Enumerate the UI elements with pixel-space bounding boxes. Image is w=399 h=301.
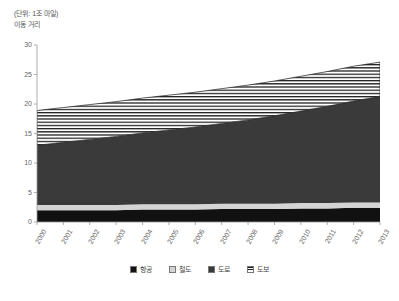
stacked-area-plot <box>0 0 399 301</box>
legend-item-road[interactable]: 도로 <box>208 266 230 273</box>
legend-swatch-icon <box>208 266 215 273</box>
y-axis-tick-label: 30 <box>18 41 32 48</box>
y-axis-tick-label: 0 <box>18 218 32 225</box>
legend-item-walk[interactable]: 도보 <box>247 266 269 273</box>
legend-label: 도로 <box>218 266 230 273</box>
x-axis-ticks <box>37 222 380 225</box>
chart-root: (단위: 1조 마일) 이동 거리 051015202530 200020012… <box>0 0 399 301</box>
legend-label: 철도 <box>179 266 191 273</box>
legend-swatch-icon <box>130 266 137 273</box>
legend-item-air[interactable]: 항공 <box>130 266 152 273</box>
legend-swatch-icon <box>169 266 176 273</box>
legend-item-rail[interactable]: 철도 <box>169 266 191 273</box>
y-axis-tick-label: 20 <box>18 100 32 107</box>
y-axis-tick-label: 5 <box>18 189 32 196</box>
area-layers <box>37 62 380 222</box>
legend-label: 항공 <box>140 266 152 273</box>
chart-legend: 항공철도도로도보 <box>0 266 399 273</box>
legend-label: 도보 <box>257 266 269 273</box>
y-axis-tick-label: 25 <box>18 71 32 78</box>
legend-swatch-icon <box>247 266 254 273</box>
y-axis-tick-label: 10 <box>18 159 32 166</box>
y-axis-ticks <box>34 45 37 222</box>
y-axis-tick-label: 15 <box>18 130 32 137</box>
